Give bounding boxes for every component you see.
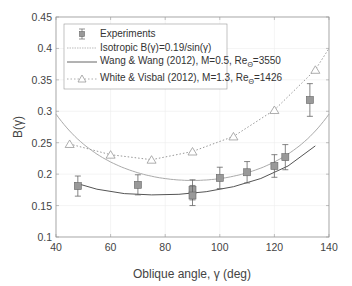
triangle-marker-icon bbox=[311, 66, 320, 74]
y-tick-label: 0.3 bbox=[37, 105, 52, 117]
y-tick-label: 0.25 bbox=[32, 137, 53, 149]
triangle-marker-icon bbox=[188, 148, 197, 156]
x-tick-label: 60 bbox=[105, 241, 117, 253]
x-tick-label: 140 bbox=[320, 241, 338, 253]
x-tick-label: 120 bbox=[266, 241, 284, 253]
y-tick-label: 0.4 bbox=[37, 42, 52, 54]
triangle-marker-icon bbox=[65, 140, 74, 148]
chart: 4060801001201400.10.150.20.250.30.350.40… bbox=[0, 0, 352, 286]
y-tick-label: 0.15 bbox=[32, 200, 53, 212]
legend-label-isotropic: Isotropic B(γ)=0.19/sin(γ) bbox=[100, 42, 211, 53]
x-tick-label: 100 bbox=[211, 241, 229, 253]
x-tick-label: 80 bbox=[159, 241, 171, 253]
y-tick-label: 0.2 bbox=[37, 168, 52, 180]
y-tick-label: 0.35 bbox=[32, 74, 53, 86]
triangle-marker-icon bbox=[106, 151, 115, 159]
triangle-marker-icon bbox=[229, 132, 238, 140]
y-axis-title: B(γ) bbox=[11, 116, 25, 138]
x-axis-title: Oblique angle, γ (deg) bbox=[133, 267, 251, 281]
y-tick-label: 0.45 bbox=[32, 11, 53, 23]
legend-label-experiments: Experiments bbox=[100, 28, 156, 39]
experiment-point bbox=[244, 162, 251, 183]
experiment-point bbox=[216, 167, 223, 188]
y-tick-label: 0.1 bbox=[37, 231, 52, 243]
triangle-marker-icon bbox=[147, 156, 156, 164]
experiment-point bbox=[74, 176, 81, 196]
legend: Experiments Isotropic B(γ)=0.19/sin(γ) W… bbox=[64, 24, 282, 89]
experiment-point bbox=[134, 175, 141, 195]
